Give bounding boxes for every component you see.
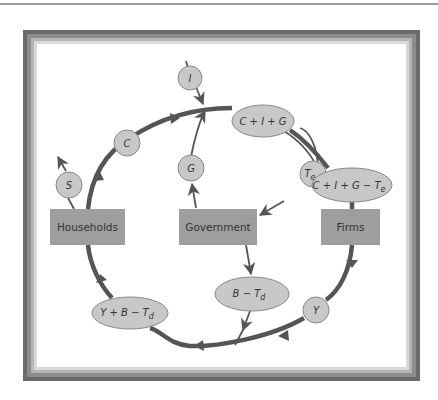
node-consumption: C (114, 130, 140, 156)
consumption-label: C (124, 138, 131, 149)
node-firm-receipts: C + I + G − Te (312, 168, 392, 202)
income-label: Y (313, 305, 320, 316)
saving-label: S (66, 180, 73, 191)
sector-government: Government (179, 209, 257, 245)
node-transfers-net: B − Td (215, 277, 289, 311)
sector-firms: Firms (321, 209, 380, 245)
node-government-spending: G (178, 155, 204, 181)
node-investment: I (178, 66, 202, 90)
node-income: Y (303, 297, 329, 323)
government-label: Government (185, 221, 250, 233)
aggregate-demand-label: C + I + G (239, 116, 286, 127)
households-label: Households (57, 221, 118, 233)
firms-label: Firms (336, 221, 364, 233)
sector-households: Households (50, 209, 125, 245)
node-disposable-income: Y + B − Td (92, 297, 168, 329)
node-aggregate-demand: C + I + G (232, 105, 294, 137)
government-spending-label: G (187, 163, 195, 174)
investment-label: I (189, 73, 192, 84)
node-saving: S (56, 172, 82, 198)
circular-flow-diagram: Households Government Firms I C S G Te Y… (0, 0, 438, 400)
arrow-icon (194, 340, 204, 351)
